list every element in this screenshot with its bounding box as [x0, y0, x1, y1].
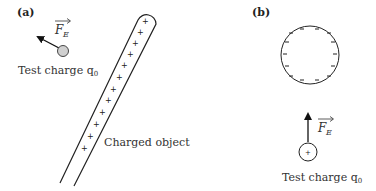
svg-text:+: + — [105, 96, 112, 105]
panel-b-label: (b) — [252, 6, 270, 19]
negative-charges — [283, 29, 337, 80]
svg-text:+: + — [116, 73, 123, 82]
svg-text:E: E — [325, 128, 332, 137]
svg-text:+: + — [132, 39, 139, 48]
svg-text:+: + — [142, 17, 149, 26]
test-charge-label-b: Test charge q0 — [282, 171, 362, 185]
svg-text:+: + — [81, 144, 88, 153]
svg-text:+: + — [121, 61, 128, 70]
panel-b: (b) — [252, 6, 362, 185]
test-charge-icon — [58, 46, 69, 57]
charged-object: + + + + + + + + + + + + — [60, 15, 156, 186]
force-arrow-icon — [38, 37, 59, 48]
charged-sphere — [281, 26, 339, 84]
panel-b-force-label: F E — [317, 117, 334, 138]
panel-a: (a) F E Test charge q0 + + + + + + + + — [17, 6, 190, 186]
svg-text:+: + — [110, 85, 117, 94]
electric-force-diagram: (a) F E Test charge q0 + + + + + + + + — [0, 0, 376, 191]
charged-object-label: Charged object — [104, 136, 190, 149]
svg-text:+: + — [127, 50, 134, 59]
test-charge-label-a: Test charge q0 — [18, 64, 98, 78]
svg-text:+: + — [305, 149, 311, 157]
panel-a-label: (a) — [17, 6, 35, 19]
svg-text:+: + — [87, 132, 94, 141]
svg-text:+: + — [137, 28, 144, 37]
positive-charges: + + + + + + + + + + + + — [81, 17, 149, 153]
svg-text:+: + — [99, 108, 106, 117]
panel-a-force-label: F E — [54, 19, 71, 40]
svg-text:+: + — [93, 120, 100, 129]
svg-text:E: E — [62, 30, 69, 39]
